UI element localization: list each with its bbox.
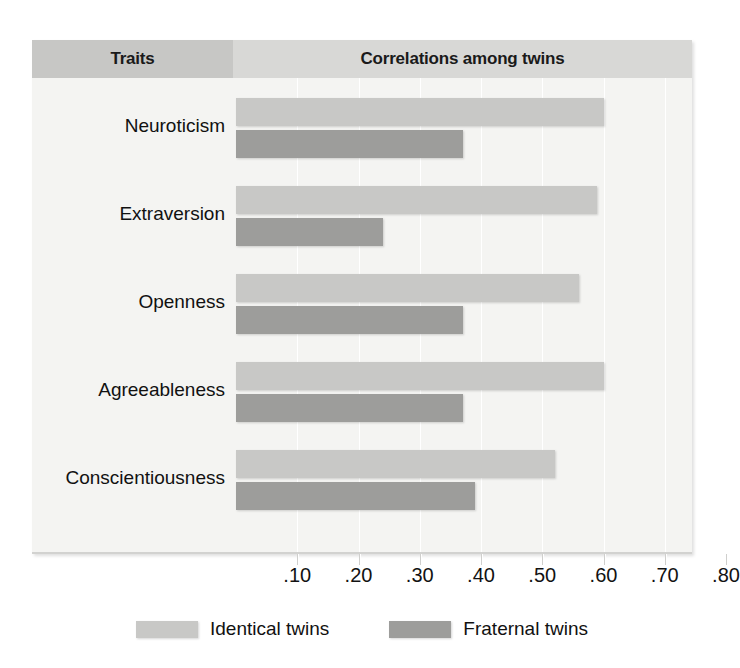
gridline-80 (726, 78, 727, 554)
header-cell-traits: Traits (32, 40, 233, 78)
bar-identical-neuroticism (236, 98, 604, 126)
chart-panel: Traits Correlations among twins Neurotic… (32, 40, 692, 554)
bar-fraternal-extraversion (236, 218, 383, 246)
header-cell-correlations: Correlations among twins (233, 40, 692, 78)
axis-label-10: .10 (283, 564, 311, 587)
legend-swatch-icon-identical (136, 621, 198, 638)
axis-label-50: .50 (528, 564, 556, 587)
axis-label-40: .40 (467, 564, 495, 587)
axis-label-70: .70 (651, 564, 679, 587)
axis-label-80: .80 (712, 564, 740, 587)
legend-label-fraternal: Fraternal twins (463, 618, 588, 640)
bar-identical-extraversion (236, 186, 597, 214)
axis-label-20: .20 (345, 564, 373, 587)
chart-legend: Identical twinsFraternal twins (32, 614, 692, 644)
bar-fraternal-neuroticism (236, 130, 463, 158)
legend-label-identical: Identical twins (210, 618, 329, 640)
header-correlations-label: Correlations among twins (361, 49, 565, 69)
bar-identical-openness (236, 274, 579, 302)
header-traits-label: Traits (110, 49, 154, 69)
chart-header-band: Traits Correlations among twins (32, 40, 692, 78)
bars (32, 78, 692, 554)
legend-item-identical: Identical twins (136, 618, 329, 640)
axis-label-30: .30 (406, 564, 434, 587)
legend-item-fraternal: Fraternal twins (389, 618, 588, 640)
bar-fraternal-conscientiousness (236, 482, 475, 510)
legend-swatch-icon-fraternal (389, 621, 451, 638)
bar-fraternal-agreeableness (236, 394, 463, 422)
bar-identical-conscientiousness (236, 450, 555, 478)
axis-label-60: .60 (590, 564, 618, 587)
axis-tick-labels: .10.20.30.40.50.60.70.80 (32, 564, 692, 592)
bar-fraternal-openness (236, 306, 463, 334)
bar-identical-agreeableness (236, 362, 604, 390)
plot-area: NeuroticismExtraversionOpennessAgreeable… (32, 78, 692, 554)
